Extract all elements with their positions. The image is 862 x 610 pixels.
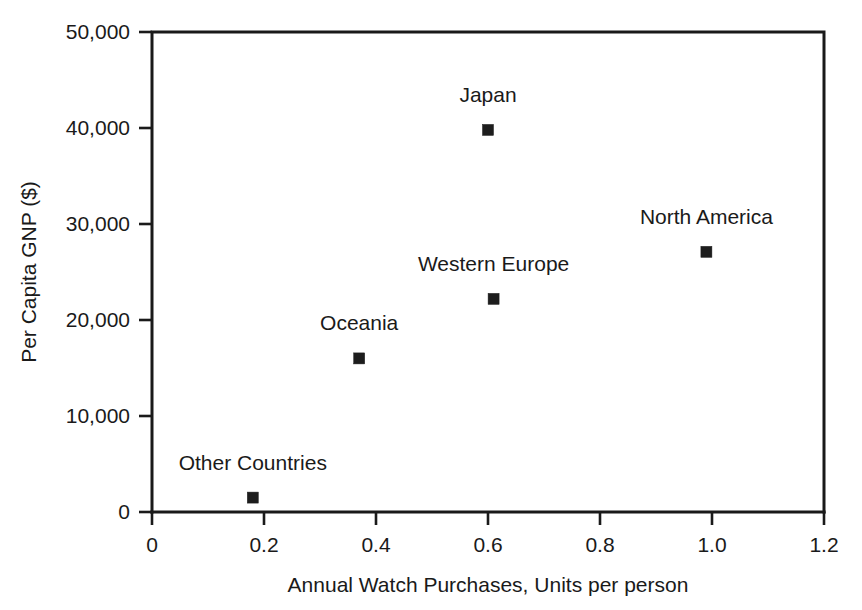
x-tick-label: 0.6	[473, 533, 502, 556]
data-point-marker	[701, 246, 712, 257]
y-tick-label: 50,000	[66, 20, 130, 43]
y-axis-title: Per Capita GNP ($)	[17, 181, 40, 363]
x-axis-title: Annual Watch Purchases, Units per person	[288, 573, 689, 596]
x-axis-tick-labels: 00.20.40.60.81.01.2	[146, 533, 838, 556]
data-point-marker	[488, 293, 499, 304]
y-tick-label: 10,000	[66, 404, 130, 427]
x-tick-label: 0.4	[361, 533, 391, 556]
y-tick-label: 30,000	[66, 212, 130, 235]
data-point-marker	[247, 492, 258, 503]
data-point-label: North America	[640, 205, 773, 228]
x-tick-label: 1.0	[697, 533, 726, 556]
scatter-chart: 00.20.40.60.81.01.2 010,00020,00030,0004…	[0, 0, 862, 610]
data-point-label: Japan	[459, 83, 516, 106]
data-point-marker	[354, 353, 365, 364]
x-tick-label: 0	[146, 533, 158, 556]
data-point-label: Western Europe	[418, 252, 569, 275]
y-tick-label: 20,000	[66, 308, 130, 331]
data-point-label: Oceania	[320, 311, 399, 334]
y-tick-label: 40,000	[66, 116, 130, 139]
y-axis-ticks	[139, 32, 152, 512]
y-tick-label: 0	[118, 500, 130, 523]
data-point-labels: Other CountriesOceaniaWestern EuropeJapa…	[179, 83, 774, 474]
x-tick-label: 0.8	[585, 533, 614, 556]
x-tick-label: 0.2	[249, 533, 278, 556]
plot-canvas: 00.20.40.60.81.01.2 010,00020,00030,0004…	[0, 0, 862, 610]
data-point-label: Other Countries	[179, 451, 327, 474]
data-point-marker	[483, 124, 494, 135]
x-tick-label: 1.2	[809, 533, 838, 556]
data-points	[247, 124, 712, 503]
x-axis-ticks	[152, 512, 824, 525]
y-axis-tick-labels: 010,00020,00030,00040,00050,000	[66, 20, 130, 523]
